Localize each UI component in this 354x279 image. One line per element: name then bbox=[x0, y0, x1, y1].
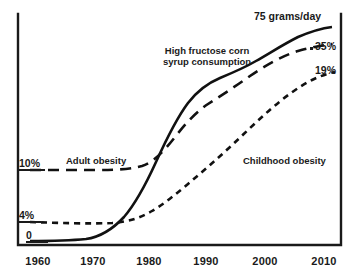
x-tick-1960: 1960 bbox=[25, 255, 50, 267]
x-tick-2010: 2010 bbox=[311, 255, 336, 267]
hfcs-start-underline bbox=[26, 241, 48, 243]
series-line-childhood-obesity bbox=[30, 72, 335, 223]
x-tick-1980: 1980 bbox=[136, 255, 161, 267]
x-tick-2000: 2000 bbox=[252, 255, 277, 267]
hfcs-annotation-line-2: syrup consumption bbox=[163, 56, 251, 67]
child-start-underline bbox=[19, 221, 41, 223]
chart-figure: 10% 4% 0 75 grams/day 35% 19% High fruct… bbox=[0, 0, 354, 279]
child-start-value-label: 4% bbox=[19, 209, 34, 221]
child-end-value-label: 19% bbox=[315, 64, 336, 76]
adult-end-value-label: 35% bbox=[315, 40, 336, 52]
hfcs-annotation-line-1: High fructose corn bbox=[165, 45, 249, 56]
x-tick-1990: 1990 bbox=[193, 255, 218, 267]
hfcs-start-value-label: 0 bbox=[26, 229, 32, 241]
adult-series-annotation: Adult obesity bbox=[66, 155, 126, 166]
child-series-annotation: Childhood obesity bbox=[243, 155, 326, 166]
hfcs-series-annotation: High fructose corn syrup consumption bbox=[163, 45, 251, 67]
adult-start-underline bbox=[19, 169, 45, 171]
hfcs-end-value-label: 75 grams/day bbox=[254, 10, 321, 22]
x-tick-1970: 1970 bbox=[80, 255, 105, 267]
chart-canvas bbox=[0, 0, 354, 279]
adult-end-marker-dot bbox=[310, 47, 313, 50]
adult-start-value-label: 10% bbox=[19, 157, 40, 169]
